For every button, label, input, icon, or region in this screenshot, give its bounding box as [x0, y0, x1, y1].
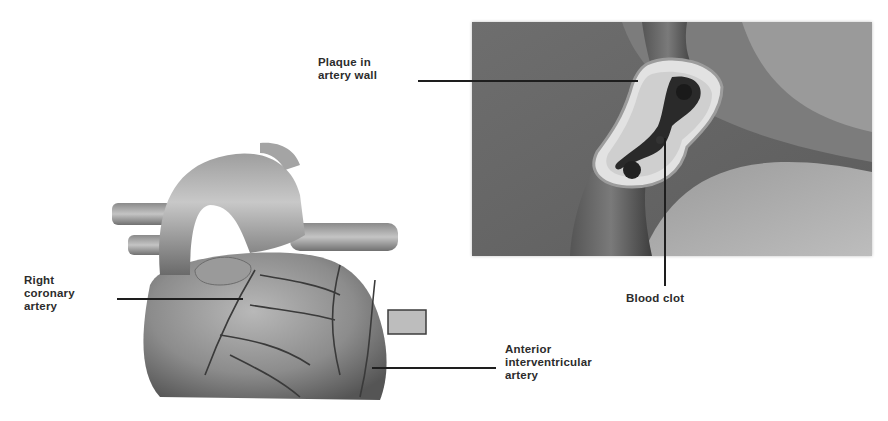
label-plaque-in-artery-wall: Plaque in artery wall: [318, 56, 377, 82]
artery-inset-illustration: [472, 22, 872, 256]
leader-line-plaque: [418, 80, 638, 82]
leader-line-right-coronary: [117, 298, 243, 300]
diagram-canvas: Plaque in artery wall Blood clot Right c…: [0, 0, 888, 421]
leader-line-blood-clot: [664, 138, 666, 286]
leader-line-anterior-interventricular: [372, 367, 496, 369]
heart-illustration: [90, 135, 490, 415]
label-blood-clot: Blood clot: [626, 292, 684, 305]
label-right-coronary-artery: Right coronary artery: [24, 274, 75, 313]
label-anterior-interventricular-artery: Anterior interventricular artery: [505, 343, 592, 382]
